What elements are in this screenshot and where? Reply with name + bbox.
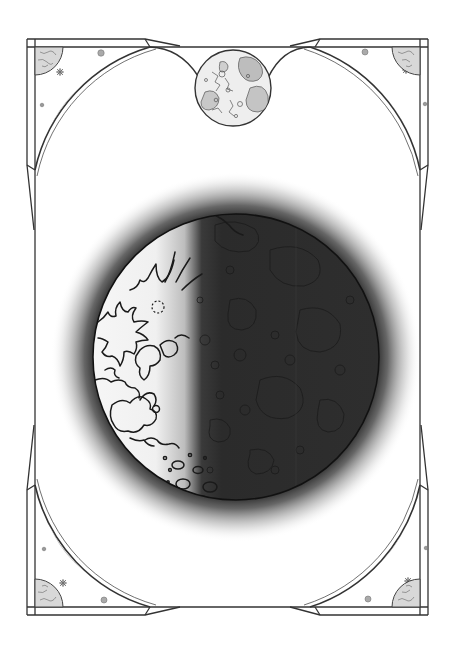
- artwork-canvas: Moon phase coloring page: [0, 0, 456, 647]
- main-moon: [51, 172, 421, 542]
- planet-dot-icon: [40, 103, 44, 107]
- illustration: [0, 0, 456, 647]
- planet-dot-icon: [423, 102, 427, 106]
- planet-dot-icon: [424, 546, 428, 550]
- top-full-moon-icon: [195, 50, 271, 126]
- planet-dot-icon: [362, 49, 368, 55]
- star-icon: [59, 579, 67, 587]
- planet-dot-icon: [98, 50, 104, 56]
- planet-dot-icon: [42, 547, 46, 551]
- planet-dot-icon: [101, 597, 107, 603]
- star-icon: [56, 68, 64, 76]
- planet-dot-icon: [365, 596, 371, 602]
